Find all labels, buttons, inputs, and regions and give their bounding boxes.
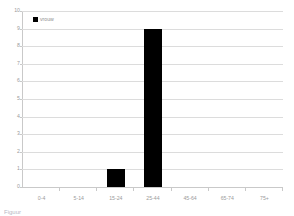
legend: vrouw: [33, 17, 54, 22]
y-tick-label: 0: [2, 184, 20, 189]
y-tick-label: 3: [2, 132, 20, 137]
y-tickmark: [20, 29, 22, 30]
y-tickmark: [20, 187, 22, 188]
x-tickmark: [134, 188, 171, 191]
x-tick-label: 5-14: [60, 195, 97, 201]
y-tickmark: [20, 64, 22, 65]
x-tickmark: [172, 188, 209, 191]
bar-slot: [209, 11, 246, 187]
x-tick-label: 0-4: [23, 195, 60, 201]
y-tickmark: [20, 169, 22, 170]
y-tickmark: [20, 134, 22, 135]
x-tick-label: 15-24: [97, 195, 134, 201]
bars-layer: [23, 11, 283, 187]
x-axis-labels: 0-45-1415-2425-4445-6465-7475+: [23, 195, 283, 201]
figure-caption: Figuur: [4, 208, 290, 216]
x-axis-tickmarks: [23, 188, 283, 191]
y-tickmark: [20, 117, 22, 118]
bar: [144, 29, 162, 187]
bar-slot: [172, 11, 209, 187]
y-axis: 012345678910: [0, 11, 20, 188]
y-tick-label: 6: [2, 79, 20, 84]
y-tick-label: 9: [2, 26, 20, 31]
y-tick-label: 7: [2, 61, 20, 66]
y-tick-label: 4: [2, 114, 20, 119]
plot-area: [22, 11, 283, 188]
x-tick-label: 65-74: [209, 195, 246, 201]
x-tick-label: 75+: [246, 195, 283, 201]
y-tickmark: [20, 152, 22, 153]
x-tick-label: 45-64: [172, 195, 209, 201]
y-tick-label: 5: [2, 96, 20, 101]
y-tick-label: 2: [2, 149, 20, 154]
y-tickmark: [20, 46, 22, 47]
x-tickmark: [60, 188, 97, 191]
bar: [107, 169, 125, 187]
y-tick-label: 10: [2, 8, 20, 13]
y-tickmark: [20, 99, 22, 100]
bar-slot: [134, 11, 171, 187]
y-tickmark: [20, 81, 22, 82]
y-tick-label: 8: [2, 44, 20, 49]
bar-slot: [23, 11, 60, 187]
bar-slot: [60, 11, 97, 187]
x-tickmark: [246, 188, 283, 191]
bar-chart: 012345678910 0-45-1415-2425-4445-6465-74…: [0, 0, 294, 216]
bar-slot: [97, 11, 134, 187]
x-tickmark: [97, 188, 134, 191]
legend-label: vrouw: [40, 17, 54, 22]
y-tick-label: 1: [2, 167, 20, 172]
legend-swatch-icon: [33, 17, 38, 22]
x-tick-label: 25-44: [134, 195, 171, 201]
bar-slot: [246, 11, 283, 187]
x-tickmark: [209, 188, 246, 191]
x-tickmark: [23, 188, 60, 191]
y-tickmark: [20, 11, 22, 12]
